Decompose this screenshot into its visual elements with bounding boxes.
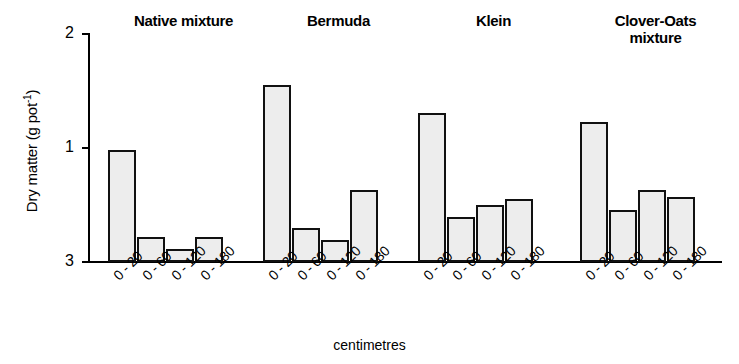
- bar[interactable]: [108, 150, 136, 262]
- x-tick-labels: 0 - 200 - 600 - 1200 - 180: [418, 262, 569, 332]
- bar-group-title: Klein: [418, 12, 569, 29]
- bar-group: Klein0 - 200 - 600 - 1200 - 180: [418, 0, 569, 364]
- bar-group-title: Bermuda: [263, 12, 414, 29]
- x-tick-labels: 0 - 200 - 600 - 1200 - 180: [580, 262, 731, 332]
- bar-group-title-line: Bermuda: [263, 12, 414, 29]
- bar-group-title-line: Native mixture: [108, 12, 259, 29]
- x-tick-labels: 0 - 200 - 600 - 1200 - 180: [108, 262, 259, 332]
- bar-group-bars: [108, 33, 259, 262]
- bar-group: Bermuda0 - 200 - 600 - 1200 - 180: [263, 0, 414, 364]
- bar-group-bars: [580, 33, 731, 262]
- plot-area: Native mixture0 - 200 - 600 - 1200 - 180…: [88, 0, 739, 364]
- bar-group: Clover-Oatsmixture0 - 200 - 600 - 1200 -…: [580, 0, 731, 364]
- bar-group-title: Native mixture: [108, 12, 259, 29]
- bar-chart-figure: Dry matter (g pot-1) 2 1 3 Native mixtur…: [0, 0, 739, 364]
- bar-group: Native mixture0 - 200 - 600 - 1200 - 180: [108, 0, 259, 364]
- bar[interactable]: [263, 85, 291, 262]
- y-axis-title-superscript: -1: [22, 95, 33, 104]
- bar-group-bars: [418, 33, 569, 262]
- x-axis-title: centimetres: [0, 337, 739, 353]
- bar[interactable]: [580, 122, 608, 262]
- bar-group-bars: [263, 33, 414, 262]
- y-axis-title-tail: ): [23, 90, 40, 95]
- bar-group-title-line: Klein: [418, 12, 569, 29]
- y-axis-title: Dry matter (g pot-1): [22, 36, 40, 266]
- bar-group-title-line: Clover-Oats: [580, 12, 731, 29]
- bar[interactable]: [418, 113, 446, 262]
- y-tick-label-middle: 1: [48, 139, 74, 155]
- y-tick-label-top: 2: [48, 25, 74, 41]
- x-tick-labels: 0 - 200 - 600 - 1200 - 180: [263, 262, 414, 332]
- y-axis-title-base: Dry matter (g pot: [23, 103, 40, 212]
- y-tick-label-bottom: 3: [48, 253, 74, 269]
